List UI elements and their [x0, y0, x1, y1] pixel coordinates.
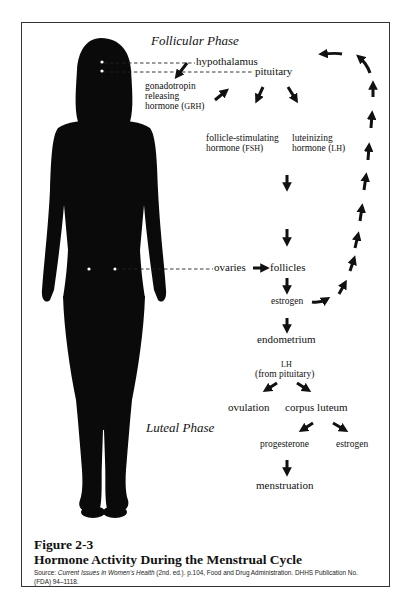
estrogen-label: estrogen: [271, 297, 303, 307]
endometrium-label: endometrium: [257, 334, 316, 346]
hypothalamus-label: hypothalamus: [196, 56, 258, 68]
pituitary-label: pituitary: [255, 66, 292, 78]
figure-source: Source: Current Issues in Women's Health…: [34, 569, 358, 586]
ovulation-label: ovulation: [228, 402, 270, 414]
luteal-phase-label: Luteal Phase: [146, 421, 214, 435]
estrogen-luteal-label: estrogen: [336, 440, 368, 450]
follicles-label: follicles: [270, 262, 305, 274]
corpus-luteum-label: corpus luteum: [285, 402, 348, 414]
ovaries-label: ovaries: [214, 262, 246, 274]
follicular-phase-label: Follicular Phase: [151, 34, 239, 48]
progesterone-label: progesterone: [260, 440, 309, 450]
menstruation-label: menstruation: [256, 480, 313, 492]
figure-number: Figure 2-3: [34, 538, 93, 552]
diagram-artwork: [0, 0, 413, 606]
figure-title: Hormone Activity During the Menstrual Cy…: [34, 553, 302, 567]
lh-from-pituitary-label: (from pituitary): [255, 370, 314, 380]
